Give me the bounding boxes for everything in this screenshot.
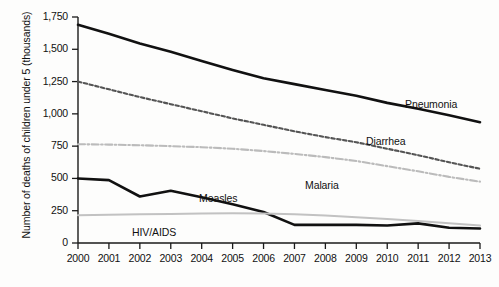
series-label-measles: Measles <box>199 192 237 204</box>
y-tick-label: 1,000 <box>22 107 68 119</box>
series-lines <box>78 25 480 229</box>
y-tick-label: 500 <box>22 171 68 183</box>
axis-lines <box>78 17 480 243</box>
plot-area <box>0 0 499 287</box>
y-tick-label: 1,250 <box>22 75 68 87</box>
y-tick-label: 750 <box>22 139 68 151</box>
series-label-pneumonia: Pneumonia <box>405 98 457 110</box>
y-tick-label: 250 <box>22 204 68 216</box>
series-line-malaria <box>78 144 480 181</box>
x-tick-label: 2013 <box>458 252 499 264</box>
y-tick-label: 1,500 <box>22 42 68 54</box>
y-tick-label: 0 <box>22 236 68 248</box>
series-line-diarrhea <box>78 82 480 169</box>
series-label-diarrhea: Diarrhea <box>366 135 405 147</box>
series-label-malaria: Malaria <box>305 179 339 191</box>
chart-container: Number of deaths of children under 5 (th… <box>0 0 499 287</box>
series-label-hiv-aids: HIV/AIDS <box>132 226 176 238</box>
y-tick-label: 1,750 <box>22 10 68 22</box>
